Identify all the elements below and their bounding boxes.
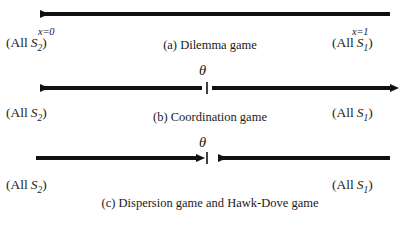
panel-caption-c: (c) Dispersion game and Hawk-Dove game — [80, 196, 340, 211]
all-text: All — [337, 177, 354, 192]
endpoint-label-left-a: (AllS2) — [6, 36, 47, 54]
strategy-symbol: S1 — [354, 177, 369, 192]
all-text: All — [11, 177, 28, 192]
all-text: All — [337, 35, 354, 50]
strategy-letter: S — [31, 177, 38, 192]
all-text: All — [11, 105, 28, 120]
paren-close: ) — [42, 35, 47, 50]
panel-caption-b: (b) Coordination game — [128, 110, 292, 125]
strategy-symbol: S2 — [28, 105, 43, 120]
axis-line-dispersion — [0, 148, 420, 172]
paren-close: ) — [368, 35, 373, 50]
strategy-letter: S — [357, 105, 364, 120]
endpoint-label-right-b: (AllS1) — [332, 106, 373, 124]
paren-close: ) — [368, 177, 373, 192]
strategy-letter: S — [31, 105, 38, 120]
strategy-symbol: S1 — [354, 35, 369, 50]
panel-caption-a: (a) Dilemma game — [140, 38, 280, 53]
paren-close: ) — [42, 105, 47, 120]
strategy-symbol: S1 — [354, 105, 369, 120]
all-text: All — [337, 105, 354, 120]
strategy-letter: S — [31, 35, 38, 50]
endpoint-label-right-c: (AllS1) — [332, 178, 373, 196]
paren-close: ) — [42, 177, 47, 192]
strategy-symbol: S2 — [28, 35, 43, 50]
endpoint-label-left-c: (AllS2) — [6, 178, 47, 196]
strategy-symbol: S2 — [28, 177, 43, 192]
endpoint-label-right-a: (AllS1) — [332, 36, 373, 54]
panel-dilemma-game: x=0 (AllS2) x=1 (AllS1) (a) Dilemma game — [0, 0, 420, 62]
theta-label-b: θ — [199, 62, 206, 79]
axis-line-coordination — [0, 78, 420, 102]
endpoint-label-left-b: (AllS2) — [6, 106, 47, 124]
panel-coordination-game: θ (AllS2) (AllS1) (b) Coordination game — [0, 62, 420, 134]
all-text: All — [11, 35, 28, 50]
evolutionary-dynamics-figure: x=0 (AllS2) x=1 (AllS1) (a) Dilemma game… — [0, 0, 420, 231]
strategy-letter: S — [357, 35, 364, 50]
strategy-letter: S — [357, 177, 364, 192]
paren-close: ) — [368, 105, 373, 120]
panel-dispersion-hawkdove-game: θ (AllS2) (AllS1) (c) Dispersion game an… — [0, 134, 420, 231]
